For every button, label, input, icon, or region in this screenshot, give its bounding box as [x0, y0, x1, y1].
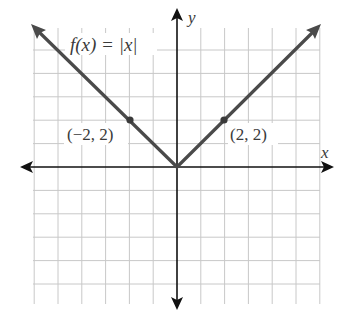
y-axis-label: y [186, 8, 196, 27]
labels: f(x) = |x| (−2, 2) (2, 2) x y [64, 8, 329, 162]
x-axis-label: x [320, 143, 329, 162]
curve-right-branch [177, 31, 314, 167]
absolute-value-graph: f(x) = |x| (−2, 2) (2, 2) x y [0, 0, 352, 324]
point-neg2-2 [126, 116, 133, 123]
point-label-2-2: (2, 2) [230, 125, 267, 144]
point-label-neg2-2: (−2, 2) [67, 125, 113, 144]
function-label: f(x) = |x| [70, 34, 138, 56]
point-2-2 [220, 116, 227, 123]
